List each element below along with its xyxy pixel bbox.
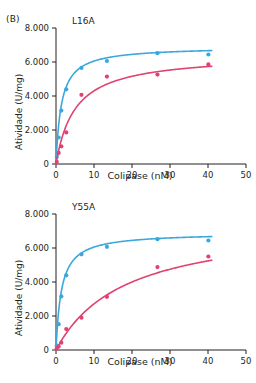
svg-text:6.000: 6.000 bbox=[25, 57, 49, 67]
svg-text:2.000: 2.000 bbox=[25, 311, 49, 321]
chart-panel-l16a: 02.0004.0006.0008.00001020304050 bbox=[0, 14, 256, 196]
chart-title-y55a: Y55A bbox=[72, 202, 95, 212]
svg-text:0: 0 bbox=[53, 170, 58, 180]
svg-text:6.000: 6.000 bbox=[25, 243, 49, 253]
x-axis-label-l16a: Colipase (nM) bbox=[60, 170, 220, 181]
chart-title-l16a: L16A bbox=[72, 16, 95, 26]
svg-text:0: 0 bbox=[44, 345, 49, 355]
svg-text:50: 50 bbox=[241, 170, 252, 180]
svg-text:0: 0 bbox=[44, 159, 49, 169]
x-axis-label-y55a: Colipase (nM) bbox=[60, 356, 220, 367]
y-axis-label-l16a: Atividade (U/mg) bbox=[14, 74, 24, 150]
svg-text:50: 50 bbox=[241, 356, 252, 366]
y-axis-label-y55a: Atividade (U/mg) bbox=[14, 260, 24, 336]
figure-panel-b: (B) 02.0004.0006.0008.00001020304050 Ati… bbox=[0, 0, 256, 383]
svg-text:8.000: 8.000 bbox=[25, 23, 49, 33]
svg-text:8.000: 8.000 bbox=[25, 209, 49, 219]
svg-text:0: 0 bbox=[53, 356, 58, 366]
svg-text:4.000: 4.000 bbox=[25, 277, 49, 287]
svg-text:2.000: 2.000 bbox=[25, 125, 49, 135]
svg-text:4.000: 4.000 bbox=[25, 91, 49, 101]
plot-area-l16a: 02.0004.0006.0008.00001020304050 bbox=[0, 14, 256, 196]
